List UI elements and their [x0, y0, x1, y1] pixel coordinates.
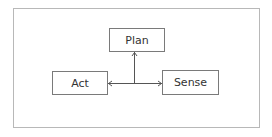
plan-label: Plan: [125, 34, 148, 47]
sense-label: Sense: [174, 76, 207, 89]
connector-lines: [0, 0, 272, 137]
plan-node: Plan: [109, 28, 165, 52]
sense-node: Sense: [162, 70, 219, 95]
act-node: Act: [52, 71, 108, 95]
act-label: Act: [71, 77, 89, 90]
